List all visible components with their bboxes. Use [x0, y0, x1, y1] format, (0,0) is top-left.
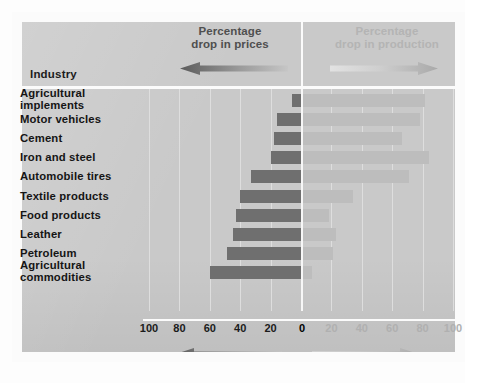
bar-production: [303, 209, 329, 222]
category-label: Agriculturalcommodities: [20, 259, 91, 283]
axis-tick-label: 40: [227, 322, 253, 334]
bar-production: [303, 190, 353, 203]
category-label-line: Petroleum: [20, 247, 77, 259]
axis-tick-label: 60: [197, 322, 223, 334]
bar-prices: [240, 190, 301, 203]
bar-prices: [271, 151, 301, 164]
axis-tick-label: 100: [440, 322, 465, 334]
category-label: Cement: [20, 132, 62, 144]
category-label-line: Automobile tires: [20, 170, 112, 182]
category-label: Petroleum: [20, 247, 77, 259]
category-label-line: Iron and steel: [20, 151, 96, 163]
category-label: Leather: [20, 228, 62, 240]
axis-tick-label: 80: [410, 322, 436, 334]
bar-prices: [277, 113, 301, 126]
category-label-line: Cement: [20, 132, 62, 144]
gridline: [149, 89, 150, 311]
bar-production: [303, 151, 429, 164]
axis-tick-label: 60: [379, 322, 405, 334]
category-label-line: Agricultural: [20, 87, 85, 99]
header-center-divider: [301, 22, 303, 88]
gridline: [179, 89, 180, 311]
legend-title-prices-line2: drop in prices: [160, 38, 300, 51]
bar-prices: [233, 228, 301, 241]
category-label: Food products: [20, 209, 101, 221]
bar-prices: [274, 132, 301, 145]
page-edge: [465, 0, 477, 383]
axis-tick-label: 20: [318, 322, 344, 334]
axis-title-industry: Industry: [30, 68, 77, 80]
category-label-line: Food products: [20, 209, 101, 221]
axis-tick-label: 100: [136, 322, 162, 334]
category-label-line: commodities: [20, 271, 91, 283]
bar-prices: [292, 94, 301, 107]
bar-production: [303, 170, 409, 183]
arrow-right-icon: [330, 62, 438, 75]
category-label-line: implements: [20, 99, 85, 111]
category-label: Textile products: [20, 190, 109, 202]
bar-prices: [251, 170, 301, 183]
arrow-left-icon: [180, 62, 288, 75]
legend-title-production-line2: drop in production: [312, 38, 462, 51]
axis-rule: [143, 319, 459, 321]
bar-production: [303, 247, 333, 260]
category-label: Iron and steel: [20, 151, 96, 163]
bar-prices: [236, 209, 301, 222]
bar-production: [303, 94, 425, 107]
axis-tick-label: 0: [289, 322, 315, 334]
category-label: Motor vehicles: [20, 113, 101, 125]
category-label-line: Textile products: [20, 190, 109, 202]
legend-title-production-line1: Percentage: [312, 25, 462, 38]
bar-prices: [227, 247, 301, 260]
category-label-line: Agricultural: [20, 259, 91, 271]
axis-tick-label: 20: [258, 322, 284, 334]
gridline: [423, 89, 424, 311]
category-label-line: Leather: [20, 228, 62, 240]
category-label: Automobile tires: [20, 170, 112, 182]
bar-production: [303, 266, 312, 279]
axis-tick-label: 40: [349, 322, 375, 334]
gridline: [453, 89, 454, 311]
legend-title-prices: Percentage drop in prices: [160, 25, 300, 51]
category-label-line: Motor vehicles: [20, 113, 101, 125]
legend-title-prices-line1: Percentage: [160, 25, 300, 38]
category-label: Agriculturalimplements: [20, 87, 85, 111]
bar-production: [303, 132, 402, 145]
chart-panel: Percentage drop in prices Percentage dro…: [12, 12, 465, 362]
figure-root: Percentage drop in prices Percentage dro…: [0, 0, 477, 383]
bar-production: [303, 228, 336, 241]
footer-arrow-left-icon: [174, 348, 282, 361]
legend-title-production: Percentage drop in production: [312, 25, 462, 51]
footer-arrow-right-icon: [312, 348, 420, 361]
axis-tick-label: 80: [166, 322, 192, 334]
bar-prices: [210, 266, 301, 279]
bar-production: [303, 113, 420, 126]
